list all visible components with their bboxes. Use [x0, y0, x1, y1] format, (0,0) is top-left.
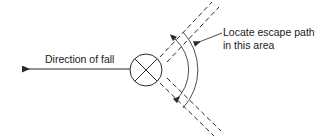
escape-path-diagram: Direction of fall Locate escape path in …	[0, 0, 335, 139]
diagram-canvas: Direction of fall Locate escape path in …	[0, 0, 335, 139]
direction-of-fall-label: Direction of fall	[45, 53, 114, 65]
lower-dashed-track	[160, 78, 221, 136]
escape-sector-arc-inner	[175, 39, 189, 101]
fall-point-marker	[130, 54, 162, 86]
upper-dashed-track	[160, 2, 219, 62]
locate-escape-path-label-line1: Locate escape path	[223, 26, 315, 38]
locate-escape-path-label-line2: in this area	[223, 39, 275, 51]
escape-path-leader-line	[194, 33, 222, 44]
